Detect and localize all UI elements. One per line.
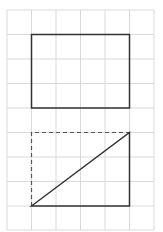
grid-figure [0,0,163,232]
